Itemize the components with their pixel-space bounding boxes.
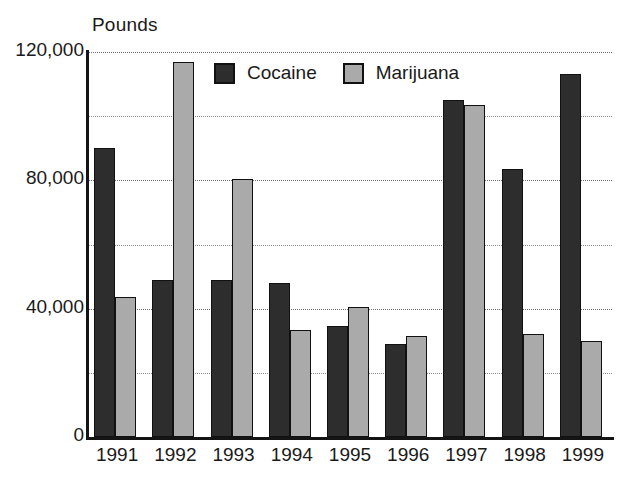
bar-group bbox=[211, 52, 253, 437]
y-tick-label: 80,000 bbox=[0, 167, 84, 189]
x-tick-label-1998: 1998 bbox=[496, 444, 554, 466]
bar-marijuana-1998[interactable] bbox=[523, 334, 544, 437]
y-axis-unit-label: Pounds bbox=[92, 14, 158, 36]
legend-swatch-cocaine-icon bbox=[214, 63, 235, 84]
legend-swatch-marijuana-icon bbox=[343, 63, 364, 84]
bar-marijuana-1993[interactable] bbox=[232, 179, 253, 437]
bar-marijuana-1994[interactable] bbox=[290, 330, 311, 437]
y-tick-label: 120,000 bbox=[0, 39, 84, 61]
bars-layer bbox=[88, 52, 612, 437]
x-tick-label-1991: 1991 bbox=[88, 444, 146, 466]
x-axis-line bbox=[86, 437, 614, 440]
y-tick-label: 0 bbox=[0, 424, 84, 446]
bar-marijuana-1995[interactable] bbox=[348, 307, 369, 437]
bar-cocaine-1993[interactable] bbox=[211, 280, 232, 437]
x-tick-label-1992: 1992 bbox=[146, 444, 204, 466]
bar-group bbox=[269, 52, 311, 437]
bar-cocaine-1999[interactable] bbox=[560, 74, 581, 437]
bar-cocaine-1995[interactable] bbox=[327, 326, 348, 437]
bar-group bbox=[502, 52, 544, 437]
legend-label: Cocaine bbox=[247, 62, 317, 84]
bar-cocaine-1991[interactable] bbox=[94, 148, 115, 437]
bar-marijuana-1997[interactable] bbox=[464, 105, 485, 437]
chart-legend: CocaineMarijuana bbox=[214, 62, 459, 84]
bar-cocaine-1992[interactable] bbox=[152, 280, 173, 437]
x-axis-tick-labels: 199119921993199419951996199719981999 bbox=[88, 444, 612, 474]
bar-group bbox=[152, 52, 194, 437]
bar-group bbox=[385, 52, 427, 437]
bar-marijuana-1999[interactable] bbox=[581, 341, 602, 437]
x-tick-label-1993: 1993 bbox=[204, 444, 262, 466]
bar-cocaine-1994[interactable] bbox=[269, 283, 290, 437]
bar-cocaine-1998[interactable] bbox=[502, 169, 523, 437]
legend-label: Marijuana bbox=[376, 62, 459, 84]
legend-item-marijuana[interactable]: Marijuana bbox=[343, 62, 459, 84]
x-tick-label-1999: 1999 bbox=[554, 444, 612, 466]
bar-marijuana-1992[interactable] bbox=[173, 62, 194, 437]
y-axis-tick-labels: 040,00080,000120,000 bbox=[0, 0, 84, 494]
bar-group bbox=[94, 52, 136, 437]
bar-cocaine-1996[interactable] bbox=[385, 344, 406, 437]
bar-group bbox=[327, 52, 369, 437]
bar-group bbox=[443, 52, 485, 437]
bar-cocaine-1997[interactable] bbox=[443, 100, 464, 437]
bar-group bbox=[560, 52, 602, 437]
legend-item-cocaine[interactable]: Cocaine bbox=[214, 62, 317, 84]
bar-marijuana-1996[interactable] bbox=[406, 336, 427, 437]
x-tick-label-1994: 1994 bbox=[263, 444, 321, 466]
y-tick-label: 40,000 bbox=[0, 296, 84, 318]
x-tick-label-1997: 1997 bbox=[437, 444, 495, 466]
bar-chart: Pounds 040,00080,000120,000 199119921993… bbox=[0, 0, 624, 494]
bar-marijuana-1991[interactable] bbox=[115, 297, 136, 437]
x-tick-label-1995: 1995 bbox=[321, 444, 379, 466]
x-tick-label-1996: 1996 bbox=[379, 444, 437, 466]
